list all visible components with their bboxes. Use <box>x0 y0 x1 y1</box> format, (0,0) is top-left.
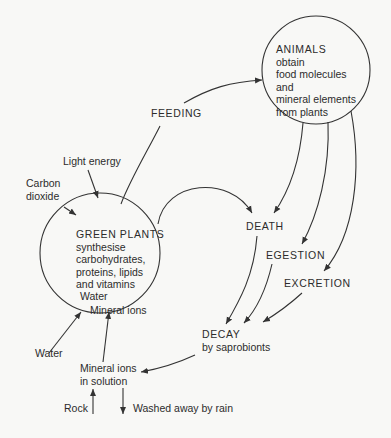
green-plants-line: carbohydrates, <box>76 253 164 266</box>
feeding-arrow-upper <box>184 80 262 103</box>
animals-heading: ANIMALS <box>276 43 356 56</box>
egestion-label: EGESTION <box>266 249 325 262</box>
decay-node: DECAY by saprobionts <box>202 328 270 353</box>
carbon-dioxide-label: Carbon dioxide <box>26 177 60 202</box>
washed-away-label: Washed away by rain <box>133 402 233 415</box>
animals-line: mineral elements <box>276 93 356 106</box>
mineral-solution-line: Mineral ions <box>80 362 137 375</box>
green-plants-line: proteins, lipids <box>76 266 164 279</box>
carbon-dioxide-arrow <box>64 207 76 215</box>
decay-heading: DECAY <box>202 328 270 341</box>
animals-to-excretion-arrow <box>324 111 356 271</box>
mineral-solution-line: in solution <box>80 375 137 388</box>
green-plants-line: and vitamins <box>76 278 164 291</box>
animals-node: ANIMALS obtain food molecules and minera… <box>276 43 356 118</box>
decay-to-mineral-solution-arrow <box>141 355 195 372</box>
plants-inner-mineral-ions-label: Mineral ions <box>90 304 147 317</box>
green-plants-heading: GREEN PLANTS <box>76 228 164 241</box>
green-plants-node: GREEN PLANTS synthesise carbohydrates, p… <box>76 228 164 291</box>
animals-line: obtain <box>276 56 356 69</box>
animals-to-egestion-arrow <box>302 122 328 244</box>
animals-line: food molecules <box>276 68 356 81</box>
green-plants-line: synthesise <box>76 241 164 254</box>
carbon-dioxide-line: Carbon <box>26 177 60 190</box>
mineral-solution-to-plants-arrow <box>103 312 109 362</box>
decay-sub: by saprobionts <box>202 341 270 354</box>
death-to-decay-arrow <box>226 236 257 324</box>
death-label: DEATH <box>246 220 284 233</box>
egestion-to-decay-arrow <box>244 264 272 323</box>
animals-to-death-arrow <box>274 123 303 213</box>
light-energy-label: Light energy <box>63 155 121 168</box>
feeding-arrow-lower <box>121 126 160 204</box>
animals-line: and <box>276 81 356 94</box>
nutrient-cycle-diagram: ANIMALS obtain food molecules and minera… <box>0 0 391 438</box>
excretion-to-decay-arrow <box>263 293 302 322</box>
mineral-ions-solution-node: Mineral ions in solution <box>80 362 137 387</box>
carbon-dioxide-line: dioxide <box>26 190 60 203</box>
rock-label: Rock <box>64 402 88 415</box>
plants-inner-water-label: Water <box>80 290 108 303</box>
excretion-label: EXCRETION <box>284 277 351 290</box>
water-label: Water <box>35 347 63 360</box>
plants-to-death-arrow <box>158 187 252 224</box>
feeding-label: FEEDING <box>151 107 202 120</box>
animals-line: from plants <box>276 106 356 119</box>
